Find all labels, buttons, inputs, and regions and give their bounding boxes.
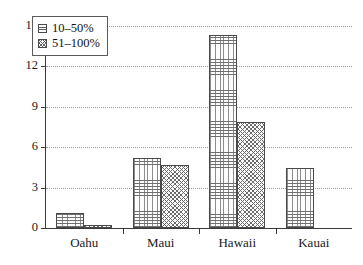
y-tick-label: 9 (10, 100, 38, 113)
bar (133, 158, 161, 228)
x-tick-mark (199, 228, 200, 234)
bar (84, 225, 112, 228)
x-category-label: Maui (123, 236, 200, 250)
y-tick-mark (41, 107, 46, 108)
y-axis-line (45, 26, 46, 229)
bar (237, 122, 265, 228)
y-tick-label: 3 (10, 181, 38, 194)
legend-item: 51–100% (38, 36, 100, 51)
x-tick-mark (123, 228, 124, 234)
gridline (46, 107, 352, 108)
x-category-label: Kauai (276, 236, 353, 250)
y-tick-label: 6 (10, 140, 38, 153)
y-tick-mark (41, 147, 46, 148)
x-category-label: Hawaii (199, 236, 276, 250)
bar (209, 35, 237, 228)
legend: 10–50% 51–100% (32, 16, 108, 56)
bar (161, 165, 189, 228)
y-tick-mark (41, 66, 46, 67)
bar-chart: 03691215 OahuMauiHawaiiKauai 10–50% 51–1… (0, 0, 363, 265)
bar (286, 168, 314, 228)
y-tick-mark (41, 228, 46, 229)
gridline (46, 66, 352, 67)
x-tick-mark (276, 228, 277, 234)
bar (56, 213, 84, 228)
y-tick-label: 12 (10, 59, 38, 72)
y-tick-label: 0 (10, 221, 38, 234)
legend-item-label: 51–100% (52, 37, 100, 50)
legend-item-label: 10–50% (52, 22, 94, 35)
x-category-label: Oahu (46, 236, 123, 250)
gridline (46, 147, 352, 148)
legend-swatch-icon (38, 39, 47, 48)
y-tick-mark (41, 188, 46, 189)
legend-item: 10–50% (38, 21, 100, 36)
legend-swatch-icon (38, 24, 47, 33)
